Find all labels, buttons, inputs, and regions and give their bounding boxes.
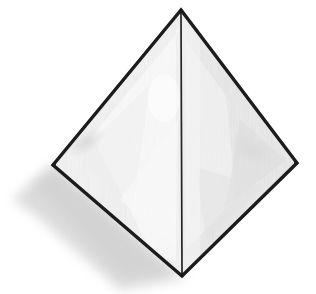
right-face-shading bbox=[181, 10, 297, 276]
apex-vertex bbox=[179, 9, 183, 13]
left-face-highlight-blob bbox=[148, 74, 180, 122]
right-vertex bbox=[294, 161, 298, 165]
left-vertex bbox=[52, 163, 56, 167]
tetrahedron-figure bbox=[0, 0, 316, 294]
center-edge bbox=[181, 12, 182, 274]
drawing-canvas: Tetrahedron line drawing bbox=[0, 0, 316, 294]
right-face-group bbox=[181, 10, 297, 276]
front-vertex bbox=[180, 273, 184, 277]
right-face-edge-shade bbox=[181, 10, 200, 276]
